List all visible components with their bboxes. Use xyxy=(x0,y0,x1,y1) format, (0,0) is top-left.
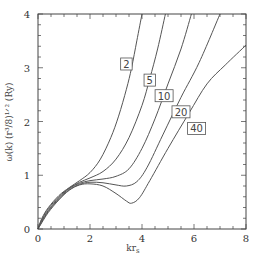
curve-rs-2 xyxy=(38,14,142,229)
y-tick-label: 3 xyxy=(24,63,30,74)
curves xyxy=(38,14,246,229)
y-tick-label: 0 xyxy=(24,224,30,235)
x-tick-label: 6 xyxy=(191,233,197,244)
y-tick-label: 2 xyxy=(24,117,30,128)
curve-rs-20 xyxy=(38,14,220,229)
curve-label-rs-40: 40 xyxy=(190,123,203,134)
plot-frame xyxy=(38,14,246,229)
curve-label-rs-5: 5 xyxy=(147,75,153,86)
curve-label-rs-2: 2 xyxy=(123,59,129,70)
y-axis-title: ω(k) (r³/8)¹ᐟ² (Ry) xyxy=(4,82,14,161)
chart: 25102040 0246801234 krs ω(k) (r³/8)¹ᐟ² (… xyxy=(0,0,260,263)
curve-labels: 25102040 xyxy=(121,58,206,135)
x-tick-label: 2 xyxy=(87,233,93,244)
x-tick-label: 4 xyxy=(139,233,145,244)
curve-rs-40 xyxy=(38,45,246,229)
y-tick-label: 4 xyxy=(24,9,30,20)
curve-label-rs-20: 20 xyxy=(175,107,188,118)
y-tick-label: 1 xyxy=(24,170,30,181)
x-tick-label: 0 xyxy=(35,233,41,244)
axis-ticks xyxy=(38,14,246,229)
x-tick-label: 8 xyxy=(243,233,249,244)
x-axis-title: krs xyxy=(126,243,140,255)
curve-label-rs-10: 10 xyxy=(158,91,171,102)
